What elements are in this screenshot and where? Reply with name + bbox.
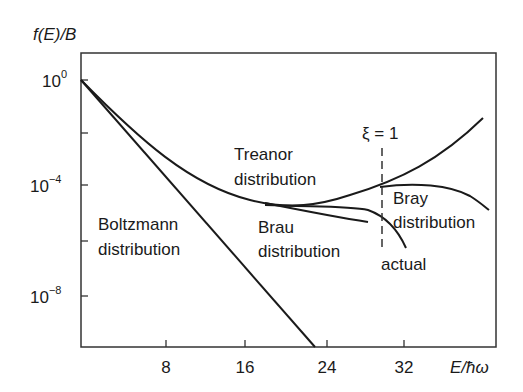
actual-label: actual bbox=[381, 255, 426, 274]
y-tick-label-1e0: 100 bbox=[42, 68, 67, 91]
x-tick-label-24: 24 bbox=[318, 358, 337, 377]
bray-label-line1: Bray bbox=[393, 189, 428, 208]
y-tick-label-1e-8: 10−8 bbox=[30, 284, 61, 307]
boltzmann-label-line2: distribution bbox=[98, 240, 180, 259]
brau-label-line2: distribution bbox=[258, 242, 340, 261]
boltzmann-label-line1: Boltzmann bbox=[98, 215, 178, 234]
y-ticks bbox=[81, 80, 88, 296]
bray-label-line2: distribution bbox=[393, 213, 475, 232]
treanor-label-line1: Treanor bbox=[234, 145, 293, 164]
boltzmann-curve bbox=[81, 80, 315, 347]
x-tick-label-8: 8 bbox=[161, 358, 170, 377]
x-tick-label-16: 16 bbox=[236, 358, 255, 377]
brau-label-line1: Brau bbox=[258, 218, 294, 237]
plot-frame bbox=[81, 53, 496, 347]
treanor-label-line2: distribution bbox=[234, 170, 316, 189]
x-tick-label-32: 32 bbox=[395, 358, 414, 377]
chart: 100 10−4 10−8 8 16 24 32 f(E)/B E/ħω ξ =… bbox=[0, 0, 523, 392]
y-tick-label-1e-4: 10−4 bbox=[30, 173, 61, 196]
x-ticks bbox=[166, 340, 404, 347]
x-axis-title: E/ħω bbox=[450, 358, 489, 377]
xi-label: ξ = 1 bbox=[362, 124, 398, 143]
y-axis-title: f(E)/B bbox=[33, 25, 76, 44]
